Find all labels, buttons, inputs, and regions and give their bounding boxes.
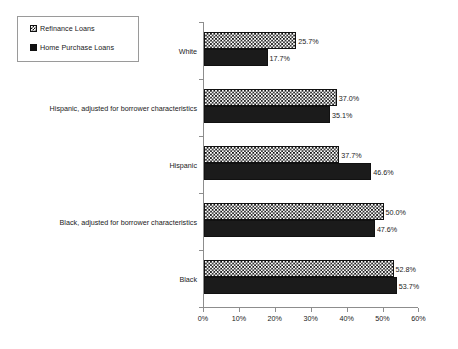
bar-value-label: 53.7%: [399, 281, 419, 290]
x-axis-tick: [347, 308, 348, 312]
chart-legend: Refinance Loans Home Purchase Loans: [17, 16, 139, 62]
bar-refinance-loans: 50.0%: [204, 203, 384, 220]
x-axis-label: 20%: [268, 314, 282, 323]
bar-value-label: 50.0%: [386, 207, 406, 216]
category-label: White: [179, 46, 197, 55]
legend-entry-refinance-loans: Refinance Loans: [30, 24, 95, 33]
legend-label-refinance-loans: Refinance Loans: [40, 24, 95, 33]
category-label: Hispanic, adjusted for borrower characte…: [50, 103, 197, 112]
x-axis-label: 40%: [339, 314, 353, 323]
solid-square-icon: [30, 44, 37, 51]
bar-home-purchase-loans: 46.6%: [204, 163, 371, 180]
y-axis-tick: [199, 136, 203, 137]
bar-value-label: 35.1%: [332, 110, 352, 119]
bar-value-label: 25.7%: [298, 36, 318, 45]
bar-home-purchase-loans: 53.7%: [204, 277, 397, 294]
category-label: Black, adjusted for borrower characteris…: [60, 217, 197, 226]
y-axis-tick: [199, 79, 203, 80]
x-axis-label: 0%: [198, 314, 208, 323]
bar-home-purchase-loans: 35.1%: [204, 106, 330, 123]
checkered-square-icon: [30, 25, 37, 32]
category-label: Black: [179, 274, 197, 283]
bar-value-label: 17.7%: [270, 53, 290, 62]
bar-refinance-loans: 52.8%: [204, 260, 394, 277]
bar-value-label: 47.6%: [377, 224, 397, 233]
bar-refinance-loans: 37.7%: [204, 146, 339, 163]
x-axis-label: 50%: [375, 314, 389, 323]
bar-home-purchase-loans: 47.6%: [204, 220, 375, 237]
x-axis-tick: [311, 308, 312, 312]
y-axis-tick: [199, 22, 203, 23]
x-axis-tick: [203, 308, 204, 312]
legend-label-home-purchase-loans: Home Purchase Loans: [40, 43, 114, 52]
x-axis-tick: [418, 308, 419, 312]
x-axis-tick: [239, 308, 240, 312]
bar-value-label: 46.6%: [373, 167, 393, 176]
bar-home-purchase-loans: 17.7%: [204, 49, 268, 66]
x-axis-label: 60%: [411, 314, 425, 323]
x-axis-tick: [383, 308, 384, 312]
bar-value-label: 37.0%: [339, 93, 359, 102]
x-axis-label: 10%: [232, 314, 246, 323]
category-label: Hispanic: [169, 160, 197, 169]
bar-refinance-loans: 37.0%: [204, 89, 337, 106]
bar-value-label: 52.8%: [396, 264, 416, 273]
bar-refinance-loans: 25.7%: [204, 32, 296, 49]
legend-entry-home-purchase-loans: Home Purchase Loans: [30, 43, 114, 52]
y-axis-tick: [199, 193, 203, 194]
plot-area: 0% 10% 20% 30% 40% 50% 60% White 25.7% 1…: [203, 22, 418, 307]
x-axis-tick: [275, 308, 276, 312]
bar-value-label: 37.7%: [341, 150, 361, 159]
x-axis-label: 30%: [303, 314, 317, 323]
y-axis-tick: [199, 250, 203, 251]
bar-chart: Refinance Loans Home Purchase Loans 0% 1…: [0, 0, 458, 349]
